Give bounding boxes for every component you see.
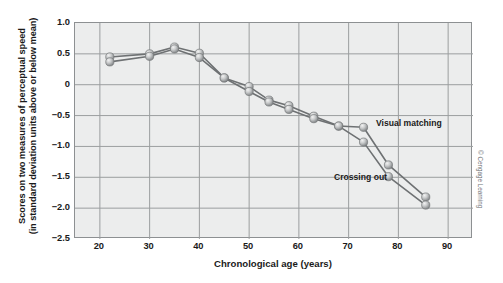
y-axis-tick-label: −1.0 [42, 140, 70, 150]
data-point-marker [310, 115, 318, 123]
x-axis-tick-label: 90 [427, 241, 467, 251]
data-point-marker [195, 53, 203, 61]
y-axis-tick-label: 1.0 [42, 17, 70, 27]
x-axis-tick-label: 80 [377, 241, 417, 251]
y-axis-tick-label: −1.5 [42, 171, 70, 181]
x-axis-tick-label: 50 [228, 241, 268, 251]
y-axis-tick-label: 0 [42, 79, 70, 89]
chart-canvas [75, 23, 473, 239]
y-axis-label-line-2: (in standard deviation units above or be… [28, 10, 38, 242]
x-axis-tick-label: 60 [278, 241, 318, 251]
plot-area [74, 22, 472, 238]
data-point-marker [220, 74, 228, 82]
data-point-marker [384, 161, 392, 169]
y-axis-label-line-1: Scores on two measures of perceptual spe… [17, 10, 27, 242]
series-annotation-crossing-out: Crossing out [334, 172, 387, 182]
series-annotation-visual-matching: Visual matching [376, 118, 442, 128]
x-axis-tick-label: 20 [79, 241, 119, 251]
y-axis-tick-label: −2.5 [42, 233, 70, 243]
x-axis-tick-label: 40 [178, 241, 218, 251]
data-point-marker [285, 105, 293, 113]
y-axis-tick-label: 0.5 [42, 48, 70, 58]
x-axis-tick-label: 70 [328, 241, 368, 251]
data-point-marker [422, 201, 430, 209]
data-point-marker [359, 138, 367, 146]
data-point-marker [245, 87, 253, 95]
x-axis-label: Chronological age (years) [74, 258, 472, 269]
chart-figure: Scores on two measures of perceptual spe… [0, 0, 503, 283]
x-axis-tick-labels: 2030405060708090 [74, 241, 472, 257]
data-point-marker [265, 98, 273, 106]
data-point-marker [106, 58, 114, 66]
data-point-marker [359, 123, 367, 131]
data-point-marker [422, 193, 430, 201]
y-axis-tick-label: −2.0 [42, 202, 70, 212]
data-point-marker [146, 52, 154, 60]
y-axis-tick-labels: 1.00.50−0.5−1.0−1.5−2.0−2.5 [40, 0, 70, 283]
y-axis-tick-label: −0.5 [42, 110, 70, 120]
data-point-marker [335, 122, 343, 130]
publisher-credit: © Cengage Learning [477, 150, 484, 208]
x-axis-tick-label: 30 [129, 241, 169, 251]
data-point-marker [170, 45, 178, 53]
